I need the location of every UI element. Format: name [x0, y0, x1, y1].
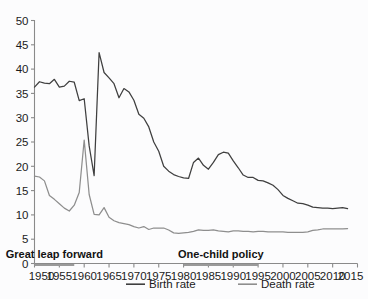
series-line-birth-rate — [35, 53, 348, 209]
x-tick-label: 1970 — [121, 270, 147, 282]
y-tick-label: 40 — [16, 63, 29, 75]
y-tick-label: 25 — [16, 136, 29, 148]
y-tick-label: 50 — [16, 15, 29, 27]
series-line-death-rate — [35, 140, 348, 233]
y-tick-label: 35 — [16, 88, 29, 100]
x-tick-label: 1990 — [220, 270, 246, 282]
annotation-label-great-leap-forward: Great leap forward — [6, 248, 103, 260]
legend-label-death-rate: Death rate — [261, 278, 315, 290]
y-tick-label: 10 — [16, 209, 29, 221]
chart-canvas: 0510152025303540455019501955196019651970… — [0, 0, 368, 299]
y-tick-label: 30 — [16, 112, 29, 124]
y-tick-label: 20 — [16, 161, 29, 173]
x-tick-label: 1965 — [96, 270, 122, 282]
x-tick-label: 1955 — [47, 270, 73, 282]
line-chart: 0510152025303540455019501955196019651970… — [0, 0, 368, 299]
x-tick-label: 1985 — [196, 270, 222, 282]
x-tick-label: 1960 — [71, 270, 97, 282]
y-tick-label: 45 — [16, 39, 29, 51]
legend-label-birth-rate: Birth rate — [149, 278, 196, 290]
x-tick-label: 2015 — [338, 270, 364, 282]
y-tick-label: 5 — [22, 233, 28, 245]
y-tick-label: 15 — [16, 185, 29, 197]
y-tick-label: 0 — [22, 258, 28, 270]
annotation-label-one-child-policy: One-child policy — [178, 248, 264, 260]
